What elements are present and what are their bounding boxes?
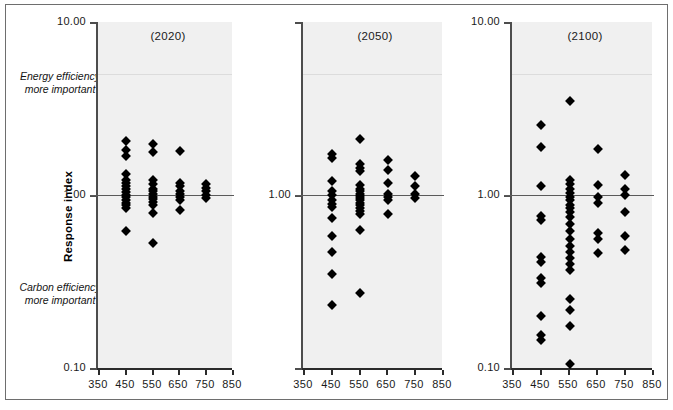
x-tick xyxy=(303,370,305,375)
x-tick xyxy=(568,370,570,375)
x-tick-label: 850 xyxy=(632,378,672,390)
y-tick xyxy=(90,368,97,370)
reference-line-1.00 xyxy=(295,195,444,196)
x-tick xyxy=(359,370,361,375)
x-tick xyxy=(125,370,127,375)
x-tick xyxy=(232,370,234,375)
y-tick-label: 1.00 xyxy=(44,188,86,200)
reference-line-1.00 xyxy=(90,195,234,196)
x-tick xyxy=(512,370,514,375)
y-tick xyxy=(90,22,97,24)
x-tick xyxy=(205,370,207,375)
x-tick xyxy=(152,370,154,375)
y-tick-label: 1.00 xyxy=(458,188,500,200)
gridline-upper xyxy=(98,74,232,75)
y-tick xyxy=(504,22,511,24)
y-axis-title: Response index xyxy=(62,171,74,262)
x-axis-line xyxy=(96,368,232,370)
y-tick-label: 10.00 xyxy=(458,15,500,27)
figure-root: Response index Energy efficiency more im… xyxy=(0,0,673,410)
panel-title: (2020) xyxy=(128,30,208,42)
y-tick xyxy=(295,368,302,370)
x-tick xyxy=(540,370,542,375)
x-tick-label: 850 xyxy=(212,378,252,390)
x-tick xyxy=(652,370,654,375)
gridline-upper xyxy=(303,74,442,75)
panel-title: (2050) xyxy=(335,30,415,42)
x-axis-line xyxy=(510,368,652,370)
x-tick xyxy=(178,370,180,375)
x-tick xyxy=(442,370,444,375)
x-tick-label: 850 xyxy=(422,378,462,390)
x-tick xyxy=(386,370,388,375)
x-tick xyxy=(414,370,416,375)
y-tick-label: 0.10 xyxy=(44,361,86,373)
x-tick xyxy=(596,370,598,375)
x-tick xyxy=(624,370,626,375)
panel-title: (2100) xyxy=(545,30,625,42)
gridline-upper xyxy=(512,74,652,75)
y-tick-label: 0.10 xyxy=(458,361,500,373)
y-tick xyxy=(504,368,511,370)
x-tick xyxy=(98,370,100,375)
y-tick-label: 1.00 xyxy=(249,188,291,200)
y-tick-label: 10.00 xyxy=(44,15,86,27)
y-tick xyxy=(295,22,302,24)
x-tick xyxy=(331,370,333,375)
x-axis-line xyxy=(301,368,442,370)
reference-line-1.00 xyxy=(504,195,654,196)
